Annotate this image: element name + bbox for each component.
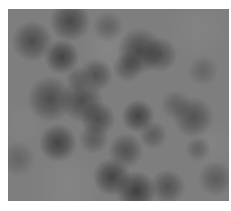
dark-blob bbox=[39, 124, 78, 163]
dark-blob bbox=[185, 136, 211, 162]
dark-blob bbox=[112, 51, 143, 82]
dark-blob bbox=[78, 123, 109, 154]
texture-image bbox=[8, 9, 229, 201]
dark-blob bbox=[142, 37, 178, 73]
dark-blob bbox=[187, 55, 218, 86]
dark-blob bbox=[8, 141, 36, 177]
dark-blob bbox=[65, 66, 91, 92]
dark-blob bbox=[150, 169, 186, 201]
dark-blob bbox=[198, 161, 229, 197]
